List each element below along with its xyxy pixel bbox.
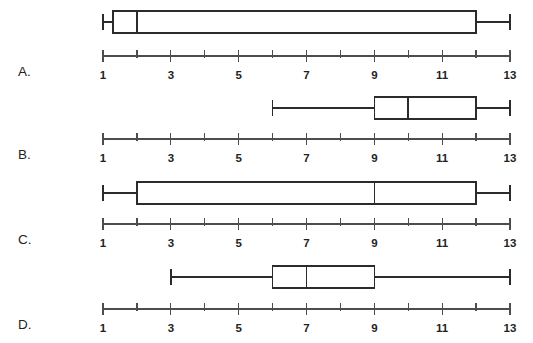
axis-b-label-9: 9 [371,152,377,164]
axis-b-label-5: 5 [235,152,242,164]
axis-d-label-9: 9 [371,322,377,334]
boxplot-d-box [273,266,375,288]
axis-a-label-5: 5 [235,69,242,81]
boxplot-c-glyph [103,182,510,204]
axis-c-label-7: 7 [303,237,309,249]
axis-a-label-1: 1 [100,69,107,81]
axis-a-label-11: 11 [436,69,449,81]
panel-label-a: A. [18,64,31,79]
panel-label-d: D. [18,317,32,332]
axis-d-label-13: 13 [504,322,517,334]
axis-d-label-3: 3 [168,322,174,334]
boxplot-a-box [113,11,476,33]
axis-c-label-5: 5 [235,237,242,249]
axis-b-label-1: 1 [100,152,107,164]
boxplot-a-glyph [103,11,510,33]
axis-b-label-7: 7 [303,152,309,164]
boxplot-b-box [374,97,476,119]
axis-c-label-11: 11 [436,237,449,249]
axis-c-label-1: 1 [100,237,107,249]
axis-d-label-5: 5 [235,322,242,334]
axis-b-label-3: 3 [168,152,174,164]
axis-a-label-3: 3 [168,69,174,81]
axis-d-label-7: 7 [303,322,309,334]
axis-b-label-13: 13 [504,152,517,164]
axis-a-label-7: 7 [303,69,309,81]
axis-b-label-11: 11 [436,152,449,164]
figure-background [0,0,533,343]
axis-c-label-9: 9 [371,237,377,249]
axis-d-label-11: 11 [436,322,449,334]
boxplot-c-box [137,182,476,204]
axis-c-label-3: 3 [168,237,174,249]
axis-c-label-13: 13 [504,237,517,249]
axis-d-label-1: 1 [100,322,107,334]
panel-label-c: C. [18,232,32,247]
axis-a-label-13: 13 [504,69,517,81]
axis-a-label-9: 9 [371,69,377,81]
panel-label-b: B. [18,147,31,162]
boxplot-figure: A. 1 3 5 7 9 [0,0,533,343]
